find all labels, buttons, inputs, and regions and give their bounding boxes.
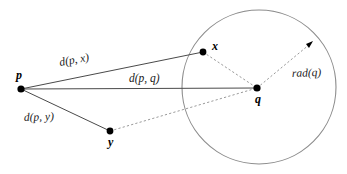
solid-edge-p-to-x: [21, 52, 203, 89]
edge-label-d-p-y: d(p, y): [24, 110, 55, 124]
edge-label-d-p-x: d(p, x): [58, 51, 90, 69]
point-p-dot: [17, 85, 24, 92]
dashed-edge-x-to-q: [203, 52, 257, 88]
point-label-q: q: [255, 92, 261, 106]
point-label-x: x: [211, 39, 218, 53]
point-q-dot: [253, 84, 260, 91]
point-x-dot: [200, 49, 207, 56]
point-y-dot: [107, 128, 114, 135]
point-label-y: y: [106, 135, 114, 149]
solid-edge-p-to-q: [21, 88, 257, 89]
edge-label-rad-q: rad(q): [292, 66, 322, 80]
point-label-p: p: [15, 68, 22, 82]
diagram-canvas: p x q y d(p, x) d(p, q) d(p, y) rad(q): [0, 0, 347, 174]
dashed-edge-y-to-q: [110, 88, 257, 131]
edge-label-d-p-q: d(p, q): [129, 72, 160, 85]
geometry-figure: p x q y d(p, x) d(p, q) d(p, y) rad(q): [0, 0, 347, 174]
radius-arrow-icon: [306, 41, 313, 48]
